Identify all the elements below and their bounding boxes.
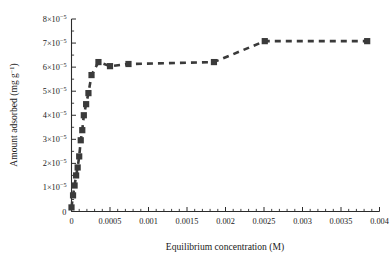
x-axis-title: Equilibrium concentration (M) [166, 241, 284, 253]
x-tick-label: 0.0015 [176, 217, 199, 226]
chart-figure: Amount adsorbed (mg g−1) Equilibrium con… [0, 0, 391, 260]
data-line-series-1 [72, 41, 368, 207]
x-tick-label: 0.004 [370, 217, 390, 226]
data-point-marker [125, 61, 131, 67]
data-point-marker [68, 204, 74, 210]
x-tick-label: 0.002 [216, 217, 235, 226]
data-point-marker [70, 192, 76, 198]
y-axis-title-base: Amount adsorbed (mg g [8, 73, 20, 167]
y-tick-label: 5×10−5 [43, 85, 67, 96]
data-point-marker [81, 112, 87, 118]
x-tick-label: 0.0035 [330, 217, 353, 226]
data-point-marker [78, 137, 84, 143]
data-point-marker [88, 72, 94, 78]
data-point-marker [95, 59, 101, 65]
y-tick-label: 4×10−5 [43, 109, 67, 120]
y-tick-label: 2×10−5 [43, 157, 67, 168]
y-tick-label: 3×10−5 [43, 133, 67, 144]
y-axis-title: Amount adsorbed (mg g−1) [8, 63, 20, 166]
y-tick-label: 1×10−5 [43, 181, 67, 192]
data-point-marker [211, 59, 217, 65]
data-point-marker [75, 164, 81, 170]
y-axis-title-tail: ) [8, 63, 20, 66]
data-point-marker [364, 38, 370, 44]
data-point-marker [83, 101, 89, 107]
isotherm-chart: Amount adsorbed (mg g−1) Equilibrium con… [0, 0, 391, 260]
x-tick-label: 0.003 [293, 217, 312, 226]
y-tick-label: 7×10−5 [43, 37, 67, 48]
x-tick-label: 0.001 [139, 217, 158, 226]
x-tick-label: 0.0025 [253, 217, 276, 226]
data-point-marker [107, 63, 113, 69]
x-axis-ticks: 00.00050.0010.00150.0020.00250.0030.0035… [69, 207, 389, 226]
data-markers-series-1 [68, 38, 370, 210]
data-point-marker [85, 90, 91, 96]
svg-text:Amount adsorbed (mg g−1): Amount adsorbed (mg g−1) [8, 63, 20, 166]
data-point-marker [79, 127, 85, 133]
data-point-marker [76, 153, 82, 159]
x-tick-label: 0.0005 [99, 217, 122, 226]
x-tick-label: 0 [69, 217, 73, 226]
y-tick-label: 6×10−5 [43, 61, 67, 72]
y-tick-label: 8×10−5 [43, 13, 67, 24]
data-point-marker [71, 182, 77, 188]
data-point-marker [73, 172, 79, 178]
y-tick-label: 0 [62, 208, 66, 217]
data-point-marker [262, 38, 268, 44]
